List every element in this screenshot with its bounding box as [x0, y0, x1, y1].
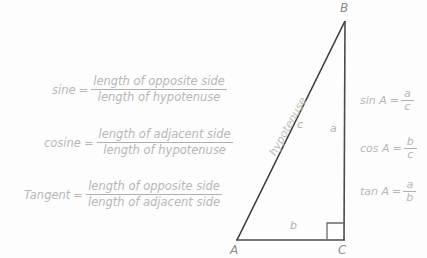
ratio-cos-a: cos A = b c — [360, 136, 417, 161]
ratio-cos-a-equals: = — [393, 142, 404, 155]
right-angle-marker-icon — [327, 223, 344, 240]
ratio-sin-a-numerator: a — [401, 88, 414, 100]
ratio-tan-a-fraction: a b — [403, 179, 416, 204]
side-label-b: b — [290, 219, 297, 232]
ratio-cos-a-numerator: b — [404, 136, 417, 148]
vertex-label-b: B — [340, 1, 348, 15]
trigonometry-diagram: sine = length of opposite side length of… — [0, 0, 427, 258]
right-triangle-figure — [0, 0, 427, 258]
ratio-tan-a-numerator: a — [403, 179, 416, 191]
ratio-tan-a: tan A = a b — [360, 179, 416, 204]
triangle-side-opposite — [344, 21, 345, 240]
ratio-cos-a-name: cos A — [360, 142, 393, 155]
ratio-sin-a-fraction: a c — [401, 88, 414, 113]
side-label-a: a — [330, 122, 337, 135]
ratio-sin-a: sin A = a c — [360, 88, 414, 113]
vertex-label-a: A — [230, 243, 238, 257]
ratio-tan-a-denominator: b — [403, 192, 416, 204]
vertex-label-c: C — [338, 243, 346, 257]
ratio-cos-a-denominator: c — [404, 149, 416, 161]
ratio-tan-a-equals: = — [392, 185, 403, 198]
ratio-tan-a-name: tan A — [360, 185, 392, 198]
ratio-cos-a-fraction: b c — [404, 136, 417, 161]
ratio-sin-a-name: sin A — [360, 94, 390, 107]
ratio-sin-a-equals: = — [390, 94, 401, 107]
ratio-sin-a-denominator: c — [401, 101, 413, 113]
